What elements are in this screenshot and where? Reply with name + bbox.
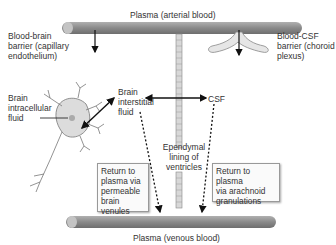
venules-callout: Return to plasma via permeable brain ven… <box>97 163 149 212</box>
ependymal-column-upper <box>176 34 182 148</box>
arterial-blood-label: Plasma (arterial blood) <box>130 10 216 20</box>
ependymal-column-lower <box>176 172 182 208</box>
ependymal-label: Ependymal lining of ventricles <box>162 142 206 172</box>
venous-vessel <box>66 216 276 228</box>
csf-label: CSF <box>208 94 225 104</box>
choroid-plexus-shape <box>209 32 269 52</box>
bcsf-label: Blood-CSF barrier (choroid plexus) <box>277 31 335 61</box>
interstitial-label: Brain interstitial fluid <box>118 87 154 117</box>
arterial-vessel <box>62 22 302 34</box>
bbb-label: Blood-brain barrier (capillary endotheli… <box>8 31 69 61</box>
intracellular-label: Brain intracellular fluid <box>8 93 51 123</box>
venous-blood-label: Plasma (venous blood) <box>133 233 220 243</box>
arachnoid-callout: Return to plasma via arachnoid granulati… <box>212 163 280 202</box>
